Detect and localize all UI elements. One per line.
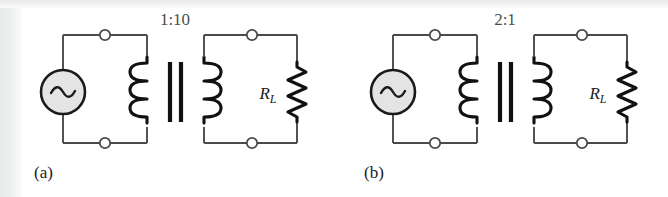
load-label-a-r: R [258, 84, 270, 103]
secondary-coil-b [534, 57, 551, 123]
secondary-terminal-top-a [247, 30, 257, 40]
primary-coil-a [130, 57, 147, 123]
primary-terminal-top-b [430, 30, 440, 40]
load-resistor-a [288, 62, 306, 122]
secondary-loop-a [204, 35, 297, 143]
circuit-panel-b: 2:1 RL (b) [364, 10, 636, 182]
secondary-terminal-top-b [577, 30, 587, 40]
load-label-a-sub: L [269, 92, 277, 106]
panel-caption-a: (a) [34, 163, 53, 182]
primary-terminal-bottom-b [430, 138, 440, 148]
transformer-core-b [500, 62, 511, 122]
load-resistor-b [618, 62, 636, 122]
ac-source-a [41, 70, 85, 114]
ac-source-b [371, 70, 415, 114]
circuit-canvas: 1:10 RL (a) [0, 0, 668, 197]
secondary-loop-b [534, 35, 627, 143]
turns-ratio-label-a: 1:10 [160, 10, 190, 29]
secondary-coil-a [204, 57, 221, 123]
transformer-core-a [170, 62, 181, 122]
load-label-b-sub: L [599, 92, 607, 106]
turns-ratio-label-b: 2:1 [494, 10, 516, 29]
primary-terminal-top-a [100, 30, 110, 40]
panel-caption-b: (b) [364, 163, 384, 182]
secondary-terminal-bottom-a [247, 138, 257, 148]
load-label-b-r: R [588, 84, 600, 103]
primary-coil-b [460, 57, 477, 123]
load-label-b: RL [588, 84, 606, 106]
primary-terminal-bottom-a [100, 138, 110, 148]
load-label-a: RL [258, 84, 276, 106]
circuit-panel-a: 1:10 RL (a) [34, 10, 306, 182]
transformer-circuits-figure: 1:10 RL (a) [0, 0, 668, 197]
secondary-terminal-bottom-b [577, 138, 587, 148]
